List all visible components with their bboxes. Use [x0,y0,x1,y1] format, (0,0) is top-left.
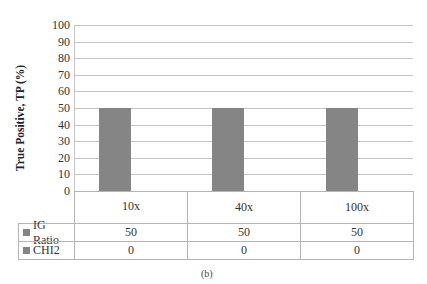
y-tick: 90 [40,36,70,48]
gridline [74,91,413,92]
y-tick: 30 [40,135,70,147]
gridline [74,75,413,76]
category-label: 100x [300,191,414,224]
bar-ig-ratio-100x [326,108,358,191]
bar-ig-ratio-40x [212,108,244,191]
y-tick: 60 [40,85,70,97]
legend-chi2: CHI2 [18,241,75,260]
y-tick: 50 [40,102,70,114]
category-label: 40x [187,191,301,224]
gridline [74,25,413,26]
gridline [74,42,413,43]
figure-caption: (b) [201,268,213,279]
table-cell: 0 [74,241,188,260]
table-cell: 50 [300,223,414,242]
legend-ig-ratio: IG Ratio [18,223,75,242]
y-tick: 70 [40,69,70,81]
category-label: 10x [74,191,188,224]
y-tick: 20 [40,152,70,164]
gridline [74,58,413,59]
legend-swatch-icon [23,229,30,236]
y-tick: 80 [40,52,70,64]
table-cell: 0 [187,241,301,260]
legend-label: CHI2 [33,243,60,258]
y-tick: 0 [40,185,70,197]
y-tick: 40 [40,119,70,131]
y-tick: 10 [40,168,70,180]
table-cell: 0 [300,241,414,260]
y-tick: 100 [40,19,70,31]
table-cell: 50 [74,223,188,242]
table-cell: 50 [187,223,301,242]
bar-ig-ratio-10x [99,108,131,191]
y-axis-label: True Positive, TP (%) [14,65,26,171]
legend-swatch-icon [23,247,30,254]
